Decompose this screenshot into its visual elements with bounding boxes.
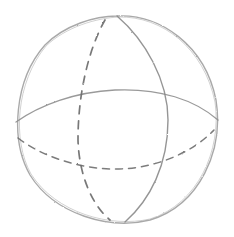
sphere-sketch xyxy=(0,0,234,237)
equator-front xyxy=(16,90,218,122)
meridian-back xyxy=(78,20,110,220)
equator-back xyxy=(18,130,214,169)
meridian-front xyxy=(117,16,168,222)
sketch-canvas: Pencil sketch of a wireframe sphere xyxy=(0,0,234,237)
